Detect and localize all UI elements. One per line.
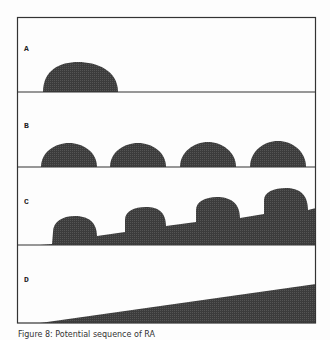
figure-caption: Figure 8: Potential sequence of RA [18,330,155,339]
panel-label-a: A [24,44,29,53]
panel-d [40,284,316,323]
figure: A B C D Figure 8: Potential sequence of … [0,0,330,340]
mound-a [43,62,118,92]
panel-b [41,141,306,167]
panel-a [43,62,118,92]
diagram-svg [0,0,330,340]
panel-label-d: D [24,275,29,284]
frame [17,18,316,324]
panel-c [40,188,316,245]
panel-label-c: C [24,197,29,206]
panel-label-b: B [24,121,29,130]
